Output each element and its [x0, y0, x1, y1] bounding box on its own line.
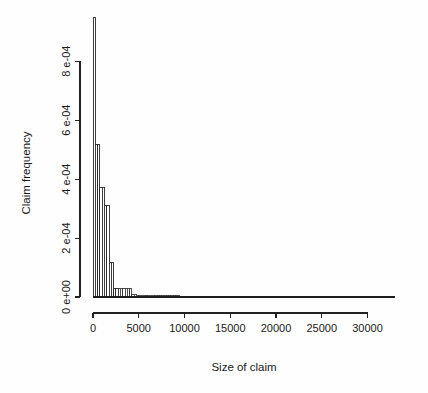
x-axis-title: Size of claim: [211, 361, 276, 373]
x-tick-label: 15000: [215, 322, 246, 334]
x-tick-label: 20000: [261, 322, 292, 334]
y-tick-label: 6 e-04: [60, 105, 72, 136]
plot-axes: [75, 61, 368, 318]
y-axis-title: Claim frequency: [20, 131, 32, 214]
x-tick-label: 5000: [127, 322, 151, 334]
x-tick-label: 0: [90, 322, 96, 334]
x-tick-label: 10000: [169, 322, 200, 334]
histogram-figure: 0500010000150002000025000300000 e+002 e-…: [0, 0, 428, 393]
y-tick-label: 0 e+00: [60, 280, 72, 314]
y-tick-label: 8 e-04: [60, 46, 72, 77]
histogram-bars: [93, 18, 395, 298]
y-tick-label: 2 e-04: [60, 222, 72, 253]
plot-canvas: 0500010000150002000025000300000 e+002 e-…: [0, 0, 428, 393]
x-tick-label: 25000: [306, 322, 337, 334]
x-tick-label: 30000: [352, 322, 383, 334]
y-tick-label: 4 e-04: [60, 164, 72, 195]
